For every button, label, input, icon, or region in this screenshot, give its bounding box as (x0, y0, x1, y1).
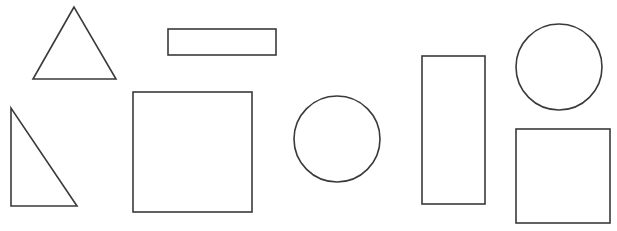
rectangle-horizontal (168, 29, 276, 55)
shapes-canvas (0, 0, 617, 231)
square-large (133, 92, 252, 212)
triangle-right (11, 108, 77, 206)
rectangle-vertical (422, 56, 485, 204)
circle-top-right (516, 24, 602, 110)
triangle-equilateral (33, 7, 116, 79)
square-bottom-right (516, 129, 610, 223)
circle-middle (294, 96, 380, 182)
